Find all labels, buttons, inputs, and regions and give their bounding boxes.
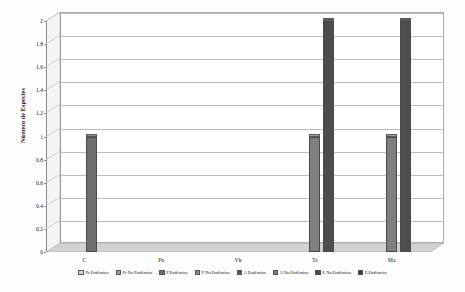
bar-chart: Número de Especies 00.20.40.60.811.21.41…	[0, 0, 465, 292]
y-tick-label: 2	[40, 18, 43, 24]
y-tick-label: 1.4	[36, 87, 43, 93]
legend-label: A No Endémica	[280, 270, 309, 275]
gridline-depth-connector	[46, 151, 60, 161]
gridline	[61, 13, 443, 14]
gridline	[61, 82, 443, 83]
bar-top-face	[86, 134, 97, 137]
y-tick-label: 1.8	[36, 41, 43, 47]
legend-label: E No Endémica	[322, 270, 350, 275]
bar-front-face	[309, 137, 320, 253]
legend-swatch-icon	[195, 270, 200, 275]
bar	[309, 137, 320, 253]
bar-front-face	[400, 21, 411, 252]
legend-item[interactable]: E No Endémica	[315, 270, 350, 275]
legend-label: P No Endémica	[202, 270, 230, 275]
x-axis-label-px: Px	[158, 257, 164, 263]
gridline-depth-connector	[46, 58, 60, 68]
chart-floor-3d	[46, 243, 444, 252]
y-axis-title: Número de Especies	[19, 66, 26, 166]
y-tick-label: 1.6	[36, 64, 43, 70]
y-tick-label: 0.2	[36, 226, 43, 232]
legend-label: Pr Endémica	[85, 270, 108, 275]
legend-swatch-icon	[315, 270, 320, 275]
legend-swatch-icon	[159, 270, 164, 275]
gridline-depth-connector	[46, 104, 60, 114]
bar	[323, 21, 334, 252]
gridline	[61, 129, 443, 130]
x-axis-label-ta: Ta	[312, 257, 318, 263]
gridline	[61, 59, 443, 60]
y-tick-label: 1	[40, 134, 43, 140]
gridline-depth-connector	[46, 174, 60, 184]
legend-item[interactable]: A Endémica	[237, 270, 266, 275]
gridline-depth-connector	[46, 128, 60, 138]
bar-top-face	[386, 134, 397, 137]
chart-legend: Pr EndémicaPr No EndémicaP EndémicaP No …	[0, 270, 465, 275]
legend-item[interactable]: Pr Endémica	[78, 270, 108, 275]
bar	[386, 137, 397, 253]
legend-label: E Endémica	[365, 270, 387, 275]
legend-item[interactable]: P No Endémica	[195, 270, 230, 275]
plot-area: 00.20.40.60.811.21.41.61.82 CPxVkTaMa	[46, 12, 444, 252]
legend-swatch-icon	[237, 270, 242, 275]
y-tick-label: 0.8	[36, 157, 43, 163]
gridline-depth-connector	[46, 81, 60, 91]
legend-item[interactable]: A No Endémica	[273, 270, 309, 275]
bar-front-face	[323, 21, 334, 252]
legend-label: P Endémica	[166, 270, 187, 275]
x-axis-label-vk: Vk	[234, 257, 241, 263]
gridline-depth-connector	[46, 220, 60, 230]
x-axis-label-ma: Ma	[388, 257, 396, 263]
bar	[400, 21, 411, 252]
legend-swatch-icon	[116, 270, 121, 275]
legend-swatch-icon	[358, 270, 363, 275]
legend-item[interactable]: P Endémica	[159, 270, 187, 275]
y-tick-label: 0.4	[36, 203, 43, 209]
gridline-depth-connector	[46, 12, 60, 22]
x-axis-label-c: C	[82, 257, 86, 263]
bar-front-face	[386, 137, 397, 253]
legend-swatch-icon	[273, 270, 278, 275]
bar-top-face	[323, 18, 334, 21]
y-tick-label: 1.2	[36, 110, 43, 116]
gridline-depth-connector	[46, 197, 60, 207]
legend-item[interactable]: Pr No Endémica	[116, 270, 153, 275]
bar-top-face	[400, 18, 411, 21]
bar-top-face	[309, 134, 320, 137]
legend-item[interactable]: E Endémica	[358, 270, 387, 275]
y-tick-mark	[44, 252, 47, 253]
y-tick-label: 0.6	[36, 180, 43, 186]
y-tick-label: 0	[40, 249, 43, 255]
gridline	[61, 36, 443, 37]
bar	[86, 137, 97, 253]
bar-front-face	[86, 137, 97, 253]
legend-label: A Endémica	[244, 270, 266, 275]
legend-label: Pr No Endémica	[122, 270, 152, 275]
gridline-depth-connector	[46, 35, 60, 45]
gridline	[61, 105, 443, 106]
legend-swatch-icon	[78, 270, 83, 275]
